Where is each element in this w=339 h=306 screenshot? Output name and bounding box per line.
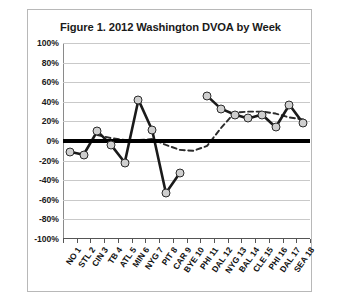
data-point-marker — [257, 110, 266, 119]
y-axis-tick-label: 40% — [42, 97, 59, 107]
data-point-marker — [244, 114, 253, 123]
x-axis-tickmark — [310, 239, 311, 243]
data-point-marker — [120, 158, 129, 167]
x-axis-tickmark — [241, 239, 242, 243]
data-point-marker — [148, 126, 157, 135]
figure-frame: Figure 1. 2012 Washington DVOA by Week 1… — [27, 9, 312, 292]
data-point-marker — [216, 104, 225, 113]
x-axis-tickmark — [228, 239, 229, 243]
data-point-marker — [79, 150, 88, 159]
data-point-marker — [285, 100, 294, 109]
x-axis-tickmark — [77, 239, 78, 243]
x-axis-tickmark — [63, 239, 64, 243]
data-point-marker — [203, 91, 212, 100]
data-point-marker — [93, 127, 102, 136]
y-axis-tick-label: -40% — [39, 175, 59, 185]
data-point-marker — [65, 147, 74, 156]
x-axis-tickmark — [296, 239, 297, 243]
y-axis-tick-label: 0% — [47, 136, 59, 146]
data-point-marker — [299, 119, 308, 128]
x-axis-tickmark — [90, 239, 91, 243]
x-axis-tickmark — [269, 239, 270, 243]
x-axis-tickmark — [132, 239, 133, 243]
x-axis-tickmark — [118, 239, 119, 243]
x-axis-tickmark — [283, 239, 284, 243]
data-point-marker — [107, 140, 116, 149]
x-axis-tickmark — [145, 239, 146, 243]
x-axis-tickmark — [200, 239, 201, 243]
data-point-marker — [230, 110, 239, 119]
x-axis-tickmark — [187, 239, 188, 243]
y-axis-tick-label: 80% — [42, 58, 59, 68]
data-point-marker — [161, 188, 170, 197]
y-axis-tick-label: 60% — [42, 77, 59, 87]
zero-reference-line — [63, 139, 310, 142]
y-axis-tick-label: 100% — [37, 38, 59, 48]
chart-title: Figure 1. 2012 Washington DVOA by Week — [28, 21, 313, 33]
y-axis-tick-label: -60% — [39, 195, 59, 205]
data-point-marker — [175, 169, 184, 178]
y-axis-tick-label: -100% — [34, 234, 59, 244]
x-axis-tickmark — [104, 239, 105, 243]
x-axis-tickmark — [173, 239, 174, 243]
x-axis-tickmark — [255, 239, 256, 243]
x-axis-tickmark — [214, 239, 215, 243]
plot-area: 100%80%60%40%20%0%-20%-40%-60%-80%-100% … — [63, 43, 310, 239]
y-axis-tick-label: -80% — [39, 214, 59, 224]
data-point-marker — [134, 95, 143, 104]
y-axis-tick-label: -20% — [39, 156, 59, 166]
y-axis-tick-label: 20% — [42, 116, 59, 126]
x-axis-tickmark — [159, 239, 160, 243]
data-point-marker — [271, 123, 280, 132]
